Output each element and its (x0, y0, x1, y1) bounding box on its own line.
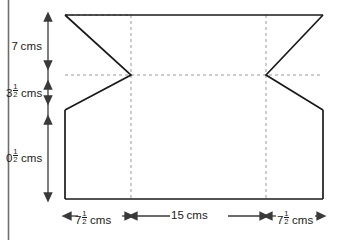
dimension-label-vertical-middle: 312cms (6, 83, 42, 99)
dimension-unit-vertical-top: cms (21, 40, 42, 52)
net-outline (65, 15, 323, 199)
fraction-half-right: 12 (284, 210, 289, 225)
arrow-right-start (264, 212, 272, 219)
arrow-up-seg3 (44, 116, 51, 124)
arrow-left-start (63, 212, 71, 219)
dimension-label-vertical-bottom: 012cms (6, 148, 42, 164)
dimension-label-horizontal-center: 15cms (171, 210, 208, 222)
dimension-unit-horizontal-left: cms (90, 214, 111, 226)
notch-left (65, 15, 131, 110)
dimension-value-horizontal-right: 7 (277, 214, 284, 226)
dimension-value-vertical-bottom: 0 (6, 152, 13, 164)
dimension-unit-horizontal-center: cms (187, 209, 208, 221)
fraction-half-bottom: 12 (13, 148, 18, 163)
arrow-up-top (44, 13, 51, 21)
arrow-down-bottom (44, 193, 51, 201)
arrow-right-end (317, 212, 325, 219)
dimension-value-horizontal-center: 15 (171, 209, 184, 221)
arrow-up-seg2 (44, 81, 51, 89)
dimension-value-vertical-top: 7 (12, 40, 19, 52)
dimension-unit-horizontal-right: cms (292, 214, 313, 226)
dimension-label-vertical-top: 7cms (10, 41, 42, 53)
dimension-unit-vertical-middle: cms (21, 87, 42, 99)
dimension-unit-vertical-bottom: cms (21, 152, 42, 164)
dimension-value-vertical-middle: 3 (6, 87, 13, 99)
fraction-half-middle: 12 (13, 83, 18, 98)
construction-lines (65, 15, 323, 199)
dimension-value-horizontal-left: 7 (75, 214, 82, 226)
diagram-page: 7cms 312cms 012cms 712cms 15cms 712cms (0, 0, 341, 240)
arrow-down-seg2 (44, 96, 51, 104)
dimension-label-horizontal-right: 712cms (277, 210, 313, 226)
arrow-center-start (129, 212, 137, 219)
vertical-dimension-axis (44, 13, 51, 201)
fraction-half-left: 12 (82, 210, 87, 225)
notch-right (266, 15, 323, 110)
arrow-down-seg1 (44, 61, 51, 69)
dimension-label-horizontal-left: 712cms (75, 210, 111, 226)
net-diagram-canvas (0, 0, 341, 240)
